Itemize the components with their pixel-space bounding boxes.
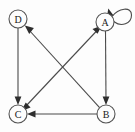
node-d[interactable]: D (9, 10, 27, 28)
edge-a-to-b[interactable] (103, 31, 110, 105)
edge-a-to-b-arrowhead (103, 97, 110, 106)
edge-d-to-c-arrowhead (15, 97, 22, 106)
edge-c-to-a[interactable] (21, 25, 102, 111)
node-d-label: D (14, 14, 21, 25)
edge-c-to-a-line (26, 30, 98, 107)
node-c-label: C (15, 109, 22, 120)
edge-b-to-d-arrowhead (25, 25, 34, 34)
node-c[interactable]: C (9, 105, 27, 123)
edge-b-to-c-arrowhead (27, 111, 36, 118)
edge-b-to-c[interactable] (27, 111, 97, 118)
node-a[interactable]: A (96, 13, 114, 31)
edge-a-to-b-line (106, 31, 107, 100)
node-a-label: A (101, 17, 109, 28)
graph-canvas: D A C B (0, 0, 135, 132)
edge-d-to-c[interactable] (15, 28, 22, 105)
edge-b-to-d-line (29, 30, 100, 108)
node-b-label: B (103, 109, 110, 120)
graph-diagram: D A C B (0, 0, 135, 132)
node-b[interactable]: B (97, 105, 115, 123)
